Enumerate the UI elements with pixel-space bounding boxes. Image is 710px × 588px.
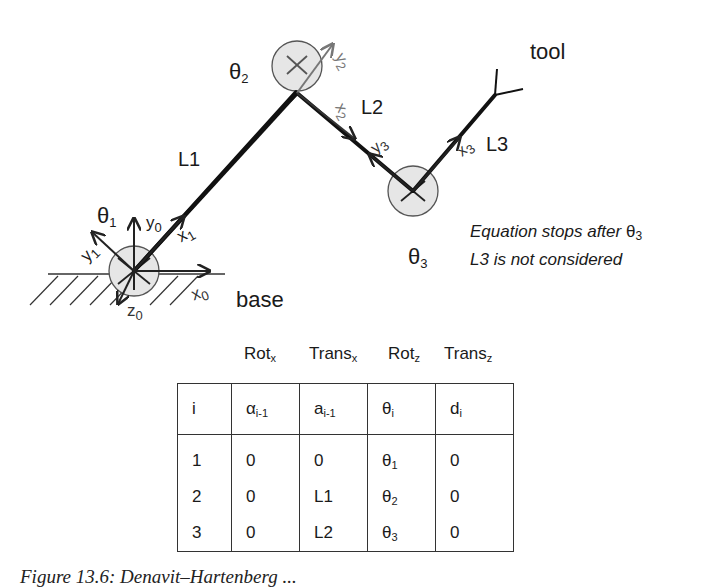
col-header-alpha: αi-1 bbox=[232, 384, 300, 435]
cell-alpha: 0 bbox=[232, 515, 300, 552]
figure-caption: Figure 13.6: Denavit–Hartenberg ... bbox=[20, 566, 297, 588]
axis-z0-label: z0 bbox=[127, 302, 143, 322]
cell-d: 0 bbox=[436, 515, 514, 552]
table-row: 1 0 0 θ1 0 bbox=[178, 435, 514, 480]
link-l3-label: L3 bbox=[486, 134, 508, 154]
op-header-transx: Transx bbox=[309, 344, 357, 364]
cell-i: 1 bbox=[178, 435, 232, 480]
tool-label: tool bbox=[530, 41, 565, 63]
cell-a: L1 bbox=[300, 479, 368, 515]
equation-note: Equation stops after θ3 L3 is not consid… bbox=[470, 220, 642, 272]
op-header-rotz: Rotz bbox=[388, 344, 420, 364]
cell-i: 2 bbox=[178, 479, 232, 515]
theta-1-label: θ1 bbox=[97, 205, 116, 229]
cell-alpha: 0 bbox=[232, 479, 300, 515]
table-row: 2 0 L1 θ2 0 bbox=[178, 479, 514, 515]
col-header-d: di bbox=[436, 384, 514, 435]
col-header-theta: θi bbox=[368, 384, 436, 435]
col-header-a: ai-1 bbox=[300, 384, 368, 435]
theta-2-label: θ2 bbox=[229, 61, 248, 85]
dh-parameter-table: i αi-1 ai-1 θi di 1 0 0 θ1 0 2 0 L1 θ2 0… bbox=[177, 383, 514, 552]
theta-3-label: θ3 bbox=[408, 246, 427, 270]
table-header-row: i αi-1 ai-1 θi di bbox=[178, 384, 514, 435]
link-l2-label: L2 bbox=[361, 97, 383, 117]
cell-alpha: 0 bbox=[232, 435, 300, 480]
cell-theta: θ2 bbox=[368, 479, 436, 515]
cell-i: 3 bbox=[178, 515, 232, 552]
cell-d: 0 bbox=[436, 479, 514, 515]
op-header-rotx: Rotx bbox=[244, 344, 276, 364]
joint-crosses bbox=[118, 56, 425, 284]
base-label: base bbox=[236, 289, 284, 311]
op-header-transz: Transz bbox=[444, 344, 492, 364]
axis-y0-label: y0 bbox=[146, 214, 162, 234]
col-header-i: i bbox=[178, 384, 232, 435]
robot-arm-diagram bbox=[0, 0, 710, 340]
link-l1-label: L1 bbox=[178, 149, 200, 169]
table-row: 3 0 L2 θ3 0 bbox=[178, 515, 514, 552]
note-line-1: Equation stops after θ3 bbox=[470, 220, 642, 248]
cell-theta: θ1 bbox=[368, 435, 436, 480]
cell-d: 0 bbox=[436, 435, 514, 480]
cell-a: L2 bbox=[300, 515, 368, 552]
note-line-2: L3 is not considered bbox=[470, 248, 642, 272]
tool-gripper-icon bbox=[495, 69, 523, 95]
cell-theta: θ3 bbox=[368, 515, 436, 552]
cell-a: 0 bbox=[300, 435, 368, 480]
